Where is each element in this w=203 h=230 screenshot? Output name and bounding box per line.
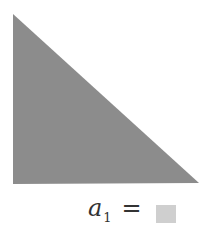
equation-label: a1 = <box>88 196 142 220</box>
value-swatch <box>156 205 176 223</box>
equals-sign: = <box>122 196 142 220</box>
right-triangle-shape <box>13 14 199 184</box>
variable-a: a <box>88 196 102 220</box>
subscript: 1 <box>103 211 111 224</box>
triangle-figure <box>0 0 203 190</box>
